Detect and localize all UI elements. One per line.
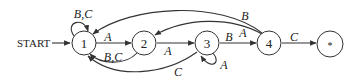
state-4: 4: [257, 31, 281, 55]
state-diagram: START B,C A B,C A A C B B A C 1 2 3 4: [0, 0, 359, 82]
state-4-label: 4: [266, 36, 273, 51]
edge-label-2-3: A: [163, 44, 172, 58]
state-accept-label: *: [328, 40, 333, 51]
state-2: 2: [132, 31, 156, 55]
edge-label-4-accept: C: [290, 30, 299, 44]
edge-label-2-1: B,C: [104, 50, 123, 64]
state-1: 1: [72, 31, 96, 55]
edge-4-1: [93, 11, 262, 34]
edge-label-3-3: A: [219, 58, 228, 72]
state-1-label: 1: [81, 36, 88, 51]
state-3-label: 3: [204, 36, 211, 51]
edge-label-4-2: A: [238, 26, 247, 40]
edge-label-4-1: B: [241, 9, 249, 23]
state-accept: *: [317, 31, 343, 57]
edge-label-3-1: C: [174, 65, 183, 79]
edge-label-1-1: B,C: [74, 7, 93, 21]
state-2-label: 2: [141, 36, 148, 51]
state-3: 3: [195, 31, 219, 55]
start-label: START: [17, 37, 51, 49]
edge-label-1-2: A: [103, 30, 112, 44]
edge-label-3-4: B: [225, 30, 233, 44]
